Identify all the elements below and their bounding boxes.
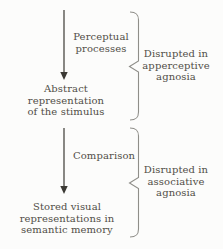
associative-agnosia-annotation: Disrupted in associative agnosia <box>142 164 210 199</box>
associative-agnosia-brace <box>130 128 139 237</box>
apperceptive-agnosia-brace <box>130 12 139 120</box>
perceptual-processes-label: Perceptual processes <box>69 31 133 54</box>
comparison-label: Comparison <box>73 150 135 162</box>
stored-representations-node: Stored visual representations in semanti… <box>17 201 117 236</box>
comparison-arrow <box>60 128 67 194</box>
perceptual-processes-arrow <box>60 10 67 80</box>
apperceptive-agnosia-annotation: Disrupted in apperceptive agnosia <box>142 48 210 83</box>
agnosia-processing-diagram: Perceptual processes Abstract representa… <box>0 0 223 249</box>
abstract-representation-node: Abstract representation of the stimulus <box>21 83 111 118</box>
